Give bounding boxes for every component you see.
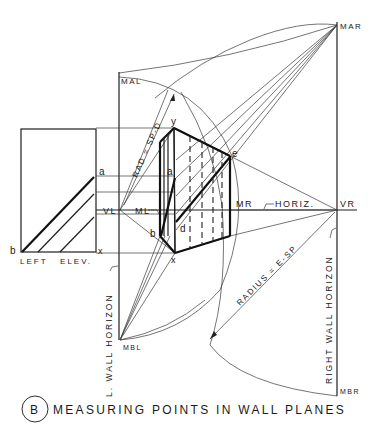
label-ml: ML bbox=[135, 206, 151, 216]
label-elev-a: a bbox=[99, 166, 105, 177]
label-b: b bbox=[150, 228, 156, 239]
ray-mar-1 bbox=[176, 25, 337, 160]
ray-mbl-1 bbox=[120, 236, 160, 340]
label-vl: VL bbox=[103, 206, 117, 216]
vr-to-bottom bbox=[230, 210, 337, 236]
label-horiz: HORIZ. bbox=[275, 199, 315, 209]
left-elevation-box bbox=[21, 129, 96, 252]
label-mal: MAL bbox=[121, 77, 142, 86]
arc-left-circle bbox=[155, 24, 337, 98]
label-x: x bbox=[171, 255, 176, 265]
ray-mar-3 bbox=[176, 25, 337, 196]
ray-mar-4 bbox=[176, 25, 337, 214]
elevation-diagonal-thick bbox=[22, 177, 94, 252]
right-horizon-leader-icon bbox=[330, 228, 336, 238]
label-mr: MR bbox=[236, 199, 253, 209]
label-right-wall-horizon: RIGHT WALL HORIZON bbox=[324, 255, 334, 384]
horiz-leader-icon bbox=[264, 204, 274, 209]
label-e: e bbox=[232, 148, 238, 159]
caption-text: MEASURING POINTS IN WALL PLANES bbox=[53, 403, 346, 417]
ray-mbl-2 bbox=[120, 236, 165, 340]
ray-mbl-4 bbox=[120, 253, 175, 340]
perspective-diagram: MAL MAR MBL MBR VL VR ML MR HORIZ. RAD =… bbox=[0, 0, 376, 439]
arrowhead-icon bbox=[170, 94, 175, 101]
label-a: a bbox=[167, 166, 173, 177]
box-b-to-x bbox=[160, 236, 175, 253]
label-elev-x: x bbox=[98, 246, 103, 256]
caption-letter: B bbox=[30, 403, 38, 417]
label-mbl: MBL bbox=[123, 344, 142, 351]
label-left-wall-horizon: L. WALL HORIZON bbox=[104, 293, 114, 397]
arrowhead-icon bbox=[210, 331, 217, 339]
label-mbr: MBR bbox=[340, 388, 360, 395]
label-y: y bbox=[171, 116, 176, 127]
label-d: d bbox=[180, 223, 186, 234]
label-mar: MAR bbox=[340, 22, 362, 31]
elevation-diagonal-3 bbox=[60, 217, 94, 252]
label-left-elev: LEFT ELEV. bbox=[20, 257, 92, 266]
box-y-left-edge bbox=[160, 128, 174, 142]
label-elev-b: b bbox=[10, 245, 16, 256]
left-horizon-leader-icon bbox=[110, 266, 118, 271]
arc-mal-to-mar bbox=[119, 25, 337, 73]
box-front-edge bbox=[174, 128, 175, 253]
elevation-diagonal-2 bbox=[38, 194, 94, 252]
label-vr: VR bbox=[340, 199, 356, 209]
label-radius-e-sp: RADIUS = E-SP bbox=[235, 243, 299, 307]
label-rad-sp-d: RAD = SP-D bbox=[131, 120, 164, 179]
ray-mbl-3 bbox=[120, 236, 170, 340]
